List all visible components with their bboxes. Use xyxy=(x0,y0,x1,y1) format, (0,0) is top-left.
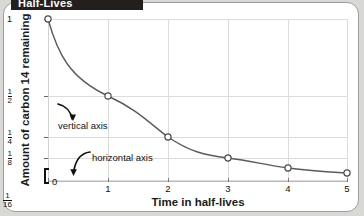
fraction-denominator: 8 xyxy=(8,158,12,167)
y-tick-mark xyxy=(44,158,48,159)
fraction-one-half: 1 2 xyxy=(8,88,12,104)
x-tick-mark xyxy=(347,178,348,182)
x-axis-title: Time in half-lives xyxy=(48,196,348,208)
figure-title: Half-Lives xyxy=(18,0,73,9)
title-banner: Half-Lives xyxy=(11,0,143,10)
x-tick-mark xyxy=(288,178,289,182)
y-tick-mark xyxy=(44,96,48,97)
chart-figure: Amount of carbon 14 remaining 1 1 2 1 4 xyxy=(0,0,364,216)
y-axis-title: Amount of carbon 14 remaining xyxy=(19,11,31,189)
y-tick-label-sixteenth: 1 16 xyxy=(3,192,12,209)
annotation-vertical-axis: vertical axis xyxy=(58,120,108,131)
y-axis-line xyxy=(48,19,49,181)
y-tick-mark xyxy=(44,137,48,138)
x-tick-mark xyxy=(108,178,109,182)
x-tick-mark xyxy=(228,178,229,182)
fraction-numerator: 1 xyxy=(8,88,12,96)
x-tick-label: 1 xyxy=(98,183,118,194)
x-tick-label: 5 xyxy=(337,183,357,194)
x-axis-line xyxy=(48,181,348,182)
gridline-vertical xyxy=(228,19,229,181)
x-tick-mark xyxy=(168,178,169,182)
y-tick-label-eighth: 1 8 xyxy=(8,150,12,167)
y-tick-label-half: 1 2 xyxy=(8,88,12,105)
y-tick-text: 1 xyxy=(7,14,12,24)
fraction-one-quarter: 1 4 xyxy=(8,129,12,145)
fraction-numerator: 1 xyxy=(3,192,12,200)
fraction-one-eighth: 1 8 xyxy=(8,150,12,166)
origin-label: 0 xyxy=(52,176,57,187)
y-tick-label-quarter: 1 4 xyxy=(8,129,12,146)
fraction-numerator: 1 xyxy=(8,150,12,158)
gridline-horizontal xyxy=(48,19,348,20)
gridline-vertical xyxy=(288,19,289,181)
fraction-one-sixteenth: 1 16 xyxy=(3,192,12,208)
annotation-horizontal-axis: horizontal axis xyxy=(92,152,153,163)
fraction-numerator: 1 xyxy=(8,129,12,137)
x-tick-mark xyxy=(48,178,49,182)
x-tick-label: 4 xyxy=(278,183,298,194)
fraction-denominator: 16 xyxy=(3,200,12,209)
fraction-denominator: 4 xyxy=(8,137,12,146)
y-tick-label-1: 1 xyxy=(7,15,12,24)
gridline-horizontal xyxy=(48,96,348,97)
x-tick-label: 2 xyxy=(158,183,178,194)
gridline-vertical xyxy=(168,19,169,181)
gridline-vertical xyxy=(347,19,348,181)
gridline-horizontal xyxy=(48,137,348,138)
fraction-denominator: 2 xyxy=(8,96,12,105)
x-tick-label: 3 xyxy=(218,183,238,194)
y-tick-mark xyxy=(44,19,48,20)
